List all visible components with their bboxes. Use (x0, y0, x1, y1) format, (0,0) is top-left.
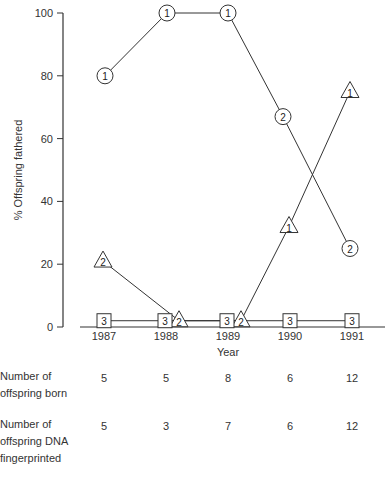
row-value: 8 (225, 372, 231, 384)
row-value: 5 (163, 372, 169, 384)
y-tick-label: 60 (41, 133, 53, 145)
svg-text:3: 3 (349, 316, 355, 327)
y-tick-label: 100 (35, 7, 53, 19)
square-marker: 3 (220, 314, 234, 328)
triangle-marker: 2 (94, 251, 112, 268)
triangle-marker: 1 (280, 217, 298, 234)
svg-text:3: 3 (162, 316, 168, 327)
x-tick-label: 1991 (340, 330, 364, 342)
svg-text:1: 1 (102, 71, 108, 82)
svg-text:3: 3 (101, 316, 107, 327)
square-marker: 3 (345, 314, 359, 328)
axes: 02040608010019871988198919901991Year% Of… (12, 7, 385, 358)
svg-text:3: 3 (224, 316, 230, 327)
y-tick-label: 0 (47, 321, 53, 333)
row-value: 5 (101, 420, 107, 432)
y-tick-label: 80 (41, 70, 53, 82)
svg-text:1: 1 (225, 8, 231, 19)
series-markers: 111222221133333 (94, 5, 359, 328)
series-line (241, 92, 350, 321)
svg-text:2: 2 (238, 317, 244, 328)
row-value: 5 (101, 372, 107, 384)
x-tick-label: 1990 (278, 330, 302, 342)
square-marker: 3 (158, 314, 172, 328)
svg-text:1: 1 (286, 223, 292, 234)
row-value: 3 (163, 420, 169, 432)
svg-text:3: 3 (287, 316, 293, 327)
y-tick-label: 40 (41, 195, 53, 207)
triangle-marker: 1 (341, 82, 359, 99)
row-value: 12 (346, 420, 358, 432)
row-value: 12 (346, 372, 358, 384)
triangle-marker: 2 (170, 311, 188, 328)
x-tick-label: 1988 (154, 330, 178, 342)
circle-marker: 2 (275, 109, 291, 125)
y-axis-title: % Offspring fathered (12, 120, 24, 221)
row-label: Number of offspring DNA fingerprinted (0, 416, 68, 467)
y-tick-label: 20 (41, 258, 53, 270)
svg-text:2: 2 (347, 244, 353, 255)
series-line (228, 13, 350, 249)
svg-text:2: 2 (176, 317, 182, 328)
line-chart: 02040608010019871988198919901991Year% Of… (0, 0, 385, 360)
row-value: 7 (225, 420, 231, 432)
series-line (105, 13, 228, 76)
square-marker: 3 (97, 314, 111, 328)
series-line (103, 261, 241, 321)
circle-marker: 1 (220, 5, 236, 21)
svg-text:2: 2 (100, 257, 106, 268)
row-value: 6 (287, 420, 293, 432)
x-axis-title: Year (217, 346, 240, 358)
circle-marker: 1 (97, 68, 113, 84)
square-marker: 3 (283, 314, 297, 328)
series-lines (103, 13, 352, 321)
svg-text:2: 2 (280, 112, 286, 123)
circle-marker: 1 (159, 5, 175, 21)
svg-text:1: 1 (347, 88, 353, 99)
x-tick-label: 1987 (92, 330, 116, 342)
svg-text:1: 1 (164, 8, 170, 19)
triangle-marker: 2 (232, 311, 250, 328)
x-tick-label: 1989 (216, 330, 240, 342)
row-value: 6 (287, 372, 293, 384)
row-label: Number of offspring born (0, 368, 67, 402)
circle-marker: 2 (342, 241, 358, 257)
